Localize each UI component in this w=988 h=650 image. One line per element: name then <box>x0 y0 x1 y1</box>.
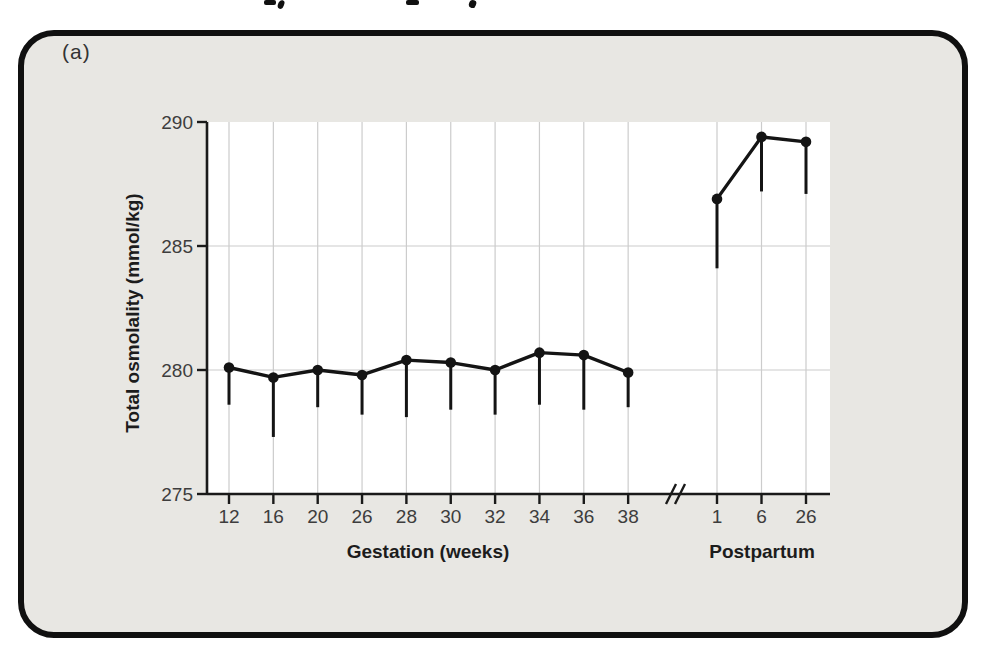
data-point-gestation-16 <box>268 372 279 383</box>
plot-area <box>207 122 830 494</box>
x-tick-label-gestation-12: 12 <box>218 506 239 527</box>
x-tick-label-postpartum-6: 6 <box>756 506 767 527</box>
y-axis-title: Total osmolality (mmol/kg) <box>122 193 144 432</box>
x-axis-title-postpartum: Postpartum <box>709 541 815 563</box>
page: { "figure": { "panel_label": "(a)" }, "c… <box>0 0 988 650</box>
x-tick-label-gestation-30: 30 <box>440 506 461 527</box>
data-point-gestation-26 <box>357 370 368 381</box>
data-point-postpartum-6 <box>756 132 767 143</box>
data-point-gestation-12 <box>224 362 235 373</box>
data-point-gestation-34 <box>534 347 545 358</box>
data-point-gestation-28 <box>401 355 412 366</box>
x-tick-label-gestation-36: 36 <box>573 506 594 527</box>
x-tick-label-gestation-20: 20 <box>307 506 328 527</box>
data-point-postpartum-26 <box>801 137 812 148</box>
x-tick-label-gestation-32: 32 <box>485 506 506 527</box>
x-tick-label-gestation-34: 34 <box>529 506 551 527</box>
x-tick-label-gestation-38: 38 <box>618 506 639 527</box>
x-tick-label-postpartum-26: 26 <box>795 506 816 527</box>
data-point-gestation-36 <box>579 350 590 361</box>
y-tick-label-280: 280 <box>161 360 193 381</box>
data-point-gestation-20 <box>312 365 323 376</box>
data-point-postpartum-1 <box>712 194 723 205</box>
x-tick-label-gestation-16: 16 <box>263 506 284 527</box>
x-tick-label-gestation-26: 26 <box>351 506 372 527</box>
x-tick-label-postpartum-1: 1 <box>712 506 723 527</box>
y-tick-label-275: 275 <box>161 484 193 505</box>
x-tick-label-gestation-28: 28 <box>396 506 417 527</box>
x-axis-title-gestation: Gestation (weeks) <box>347 541 510 563</box>
data-point-gestation-32 <box>490 365 501 376</box>
data-point-gestation-38 <box>623 367 634 378</box>
y-tick-label-290: 290 <box>161 112 193 133</box>
y-tick-label-285: 285 <box>161 236 193 257</box>
data-point-gestation-30 <box>445 357 456 368</box>
